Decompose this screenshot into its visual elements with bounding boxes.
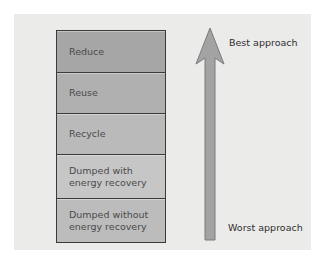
level-label: Recycle: [69, 128, 106, 140]
level-recycle: Recycle: [57, 113, 165, 154]
level-label: Dumped with energy recovery: [69, 165, 159, 189]
waste-hierarchy-stack: Reduce Reuse Recycle Dumped with energy …: [56, 30, 166, 243]
level-reduce: Reduce: [57, 31, 165, 72]
worst-approach-label: Worst approach: [228, 222, 303, 233]
level-label: Reuse: [69, 87, 98, 99]
level-reuse: Reuse: [57, 72, 165, 113]
up-arrow-icon: [195, 27, 227, 246]
level-dumped-with-energy-recovery: Dumped with energy recovery: [57, 154, 165, 198]
level-label: Dumped without energy recovery: [69, 209, 161, 233]
best-approach-label: Best approach: [229, 37, 298, 48]
level-label: Reduce: [69, 46, 104, 58]
level-dumped-without-energy-recovery: Dumped without energy recovery: [57, 198, 165, 242]
